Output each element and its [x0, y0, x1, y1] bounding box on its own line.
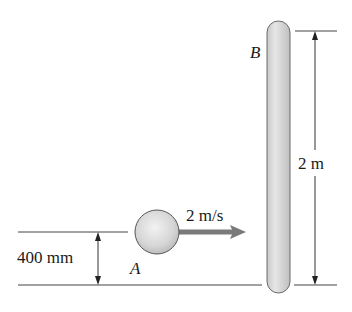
velocity-arrow: 2 m/s [179, 206, 246, 239]
arrowhead-down-icon [312, 276, 318, 285]
height-label: 400 mm [17, 248, 73, 267]
ball-a: A [129, 210, 179, 278]
rod-label: B [250, 43, 261, 62]
length-label: 2 m [298, 154, 324, 173]
collision-diagram: 400 mm B 2 m 2 m/s A [0, 0, 352, 312]
length-dimension: 2 m [298, 31, 324, 285]
rod-b: B [250, 21, 290, 293]
ball-body [135, 210, 179, 254]
ball-label: A [129, 259, 141, 278]
arrowhead-up-icon [95, 232, 101, 241]
velocity-label: 2 m/s [186, 206, 223, 225]
rod-body [267, 21, 290, 293]
arrowhead-down-icon [95, 276, 101, 285]
height-dimension: 400 mm [17, 232, 101, 285]
arrowhead-up-icon [312, 31, 318, 40]
